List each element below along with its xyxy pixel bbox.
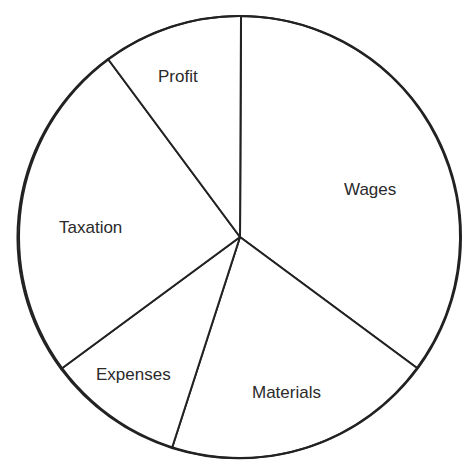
- label-materials: Materials: [252, 383, 321, 402]
- pie-chart: Profit Wages Taxation Expenses Materials: [0, 0, 475, 475]
- label-wages: Wages: [344, 180, 396, 199]
- label-profit: Profit: [158, 67, 198, 86]
- label-expenses: Expenses: [96, 365, 171, 384]
- label-taxation: Taxation: [59, 218, 122, 237]
